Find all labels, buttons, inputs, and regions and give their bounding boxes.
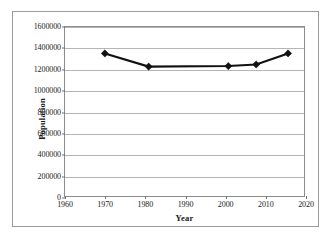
data-point-marker <box>225 63 232 70</box>
chart-figure: Population 02000004000006000008000001000… <box>12 11 319 227</box>
x-tick-mark <box>306 196 307 199</box>
series-plot <box>65 27 304 196</box>
data-point-marker <box>145 63 152 70</box>
y-tick-label: 400000 <box>38 151 61 159</box>
y-tick-label: 1200000 <box>34 66 61 74</box>
data-point-marker <box>284 50 291 57</box>
x-tick-label: 1970 <box>97 201 113 209</box>
plot-area: 0200000400000600000800000100000012000001… <box>64 26 305 197</box>
x-tick-label: 1960 <box>57 201 73 209</box>
x-tick-mark <box>186 196 187 199</box>
x-tick-mark <box>145 196 146 199</box>
x-tick-label: 2000 <box>218 201 234 209</box>
y-tick-label: 800000 <box>38 109 61 117</box>
y-tick-label: 200000 <box>38 173 61 181</box>
y-tick-label: 1400000 <box>34 44 61 52</box>
x-axis-title: Year <box>65 213 304 223</box>
y-tick-label: 1600000 <box>34 23 61 31</box>
x-tick-mark <box>105 196 106 199</box>
series-line <box>105 53 288 66</box>
y-tick-label: 600000 <box>38 130 61 138</box>
x-tick-mark <box>65 196 66 199</box>
data-point-marker <box>253 61 260 68</box>
x-tick-label: 2010 <box>258 201 274 209</box>
x-tick-label: 2020 <box>298 201 314 209</box>
y-tick-label: 1000000 <box>34 87 61 95</box>
x-tick-mark <box>266 196 267 199</box>
x-tick-mark <box>226 196 227 199</box>
x-tick-label: 1990 <box>178 201 194 209</box>
x-tick-label: 1980 <box>138 201 154 209</box>
data-point-marker <box>101 50 108 57</box>
